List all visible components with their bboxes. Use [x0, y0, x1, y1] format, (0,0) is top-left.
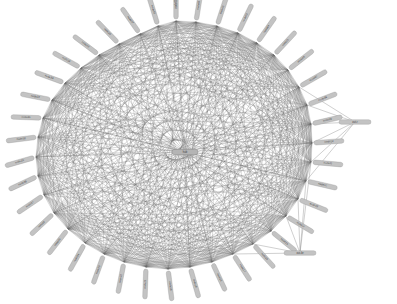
graph-node[interactable]: node00 — [174, 0, 179, 19]
node-label: node31 — [21, 115, 31, 119]
network-graph-svg: node00node01node02node03node04node05node… — [0, 0, 397, 304]
node-label: node10 — [324, 139, 334, 144]
node-label: node21 — [143, 279, 147, 289]
network-graph-canvas: node00node01node02node03node04node05node… — [0, 0, 397, 304]
node-label: out-br — [296, 251, 303, 255]
node-label: node00 — [174, 0, 178, 8]
node-label: node11 — [323, 161, 333, 166]
node-label: out-r — [352, 120, 358, 124]
node-label: hub — [183, 150, 188, 154]
graph-node-hub[interactable]: hub — [172, 149, 198, 154]
graph-node-outlier[interactable]: out-r — [339, 120, 371, 125]
graph-node-outlier[interactable]: out-br — [284, 251, 316, 256]
